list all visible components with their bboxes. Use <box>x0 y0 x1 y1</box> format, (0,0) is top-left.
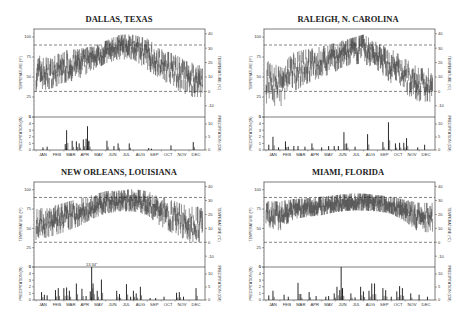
month-label: MAR <box>296 152 305 157</box>
month-label: AUG <box>366 152 375 157</box>
precip-tick-label-right: 5 <box>438 284 441 289</box>
ytick-label: 25 <box>257 245 262 250</box>
ytick-label: 50 <box>27 74 32 79</box>
panel-new-orleans: NEW ORLEANS, LOUISIANA 0255075100-100102… <box>19 167 221 307</box>
precip-tick-label: 2 <box>259 134 262 139</box>
precip-tick-label-right: 10 <box>208 271 213 276</box>
month-label: JUN <box>108 302 116 307</box>
month-label: DEC <box>422 302 431 307</box>
precip-tick-label: 2 <box>259 284 262 289</box>
month-label: SEP <box>150 152 159 157</box>
precip-tick-label: 2 <box>29 284 32 289</box>
precip-tick-label: 3 <box>259 128 262 133</box>
chart-title: RALEIGH, N. CAROLINA <box>297 14 399 24</box>
month-label: JUL <box>123 152 131 157</box>
ytick-label-right: 20 <box>208 212 213 217</box>
ytick-label-right: 20 <box>208 60 213 65</box>
panel-dallas: DALLAS, TEXAS 0255075100-10010203040TEMP… <box>19 14 221 157</box>
y-axis-label-left: TEMPERATURE (°F) <box>249 208 253 242</box>
ytick-label: 25 <box>27 94 32 99</box>
precip-tick-label-right: 5 <box>208 284 211 289</box>
precip-tick-label-right: 0 <box>438 147 441 152</box>
precip-axis-label-left: PRECIPITATION (IN) <box>249 116 253 150</box>
y-axis-label-left: TEMPERATURE (°F) <box>19 208 23 242</box>
month-label: NOV <box>408 152 417 157</box>
month-label: OCT <box>394 302 403 307</box>
ytick-label-right: 20 <box>438 60 443 65</box>
ytick-label: 100 <box>24 187 31 192</box>
ytick-label-right: 40 <box>208 184 213 189</box>
ytick-label-right: 30 <box>438 198 443 203</box>
panel-raleigh: RALEIGH, N. CAROLINA 0255075100-10010203… <box>249 14 451 157</box>
month-label: OCT <box>164 152 173 157</box>
precip-tick-label: 0 <box>259 147 262 152</box>
ytick-label-right: 10 <box>438 74 443 79</box>
precip-tick-label-right: 10 <box>438 121 443 126</box>
chart-title: NEW ORLEANS, LOUISIANA <box>61 167 178 177</box>
month-label: MAY <box>94 302 103 307</box>
ytick-label-right: 30 <box>208 46 213 51</box>
precip-tick-label: 3 <box>259 278 262 283</box>
precip-tick-label: 0 <box>29 297 32 302</box>
month-label: JUL <box>123 302 131 307</box>
ytick-label-right: 30 <box>438 46 443 51</box>
month-label: MAR <box>296 302 305 307</box>
ytick-label-right: 0 <box>438 89 441 94</box>
y-axis-label-right: TEMPERATURE (°C) <box>217 56 221 90</box>
ytick-label: 100 <box>24 34 31 39</box>
precip-tick-label: 0 <box>29 147 32 152</box>
precip-tick-label: 1 <box>29 141 32 146</box>
month-label: NOV <box>178 302 187 307</box>
ytick-label-right: -10 <box>438 103 445 108</box>
y-axis-label-right: TEMPERATURE (°C) <box>447 207 451 241</box>
month-label: JAN <box>269 302 277 307</box>
month-label: OCT <box>394 152 403 157</box>
month-label: MAR <box>66 152 75 157</box>
precip-annotation: 13.34" <box>86 262 98 267</box>
precip-tick-label-right: 5 <box>208 134 211 139</box>
precip-axis-label-right: PRECIPITATION (CM) <box>217 115 221 151</box>
month-label: NOV <box>408 302 417 307</box>
y-axis-label-left: TEMPERATURE (°F) <box>249 56 253 90</box>
ytick-label-right: 30 <box>208 198 213 203</box>
ytick-label-right: 10 <box>208 226 213 231</box>
precip-tick-label-right: 10 <box>208 121 213 126</box>
month-label: JAN <box>269 152 277 157</box>
month-label: FEB <box>283 302 291 307</box>
precip-tick-label: 3 <box>29 278 32 283</box>
chart-title: MIAMI, FLORIDA <box>312 167 385 177</box>
month-label: AUG <box>136 302 145 307</box>
precip-tick-label-right: 0 <box>208 297 211 302</box>
month-label: FEB <box>283 152 291 157</box>
month-label: MAY <box>94 152 103 157</box>
month-label: SEP <box>380 152 389 157</box>
month-label: JUL <box>353 152 361 157</box>
ytick-label-right: 20 <box>438 212 443 217</box>
temperature-series <box>266 35 433 106</box>
precip-tick-label-right: 0 <box>208 147 211 152</box>
ytick-label: 25 <box>257 94 262 99</box>
ytick-label-right: 10 <box>208 74 213 79</box>
ytick-label-right: -10 <box>208 254 215 259</box>
ytick-label-right: -10 <box>208 103 215 108</box>
precip-axis-label-left: PRECIPITATION (IN) <box>19 266 23 300</box>
precip-tick-label: 1 <box>259 141 262 146</box>
month-label: JUN <box>338 302 346 307</box>
precip-tick-label: 5 <box>259 264 262 269</box>
panel-miami: MIAMI, FLORIDA 0255075100-10010203040TEM… <box>249 167 451 307</box>
month-label: JUL <box>353 302 361 307</box>
precip-tick-label-right: 0 <box>438 297 441 302</box>
ytick-label: 50 <box>257 226 262 231</box>
ytick-label-right: 0 <box>438 240 441 245</box>
precip-axis-label-right: PRECIPITATION (CM) <box>217 265 221 301</box>
month-label: SEP <box>380 302 389 307</box>
ytick-label-right: -10 <box>438 254 445 259</box>
month-label: DEC <box>422 152 431 157</box>
ytick-label: 100 <box>254 34 261 39</box>
month-label: APR <box>80 302 89 307</box>
ytick-label: 75 <box>257 206 262 211</box>
precip-tick-label: 5 <box>29 264 32 269</box>
ytick-label-right: 40 <box>438 184 443 189</box>
month-label: DEC <box>192 152 201 157</box>
month-label: JAN <box>39 302 47 307</box>
